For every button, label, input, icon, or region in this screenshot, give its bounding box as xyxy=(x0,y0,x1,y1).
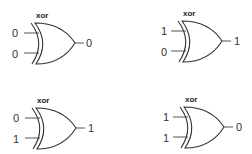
input-a-value: 1 xyxy=(163,111,169,123)
output-value: 0 xyxy=(86,37,92,49)
xor-gate-body-icon xyxy=(35,23,75,64)
gate-label: xor xyxy=(36,11,48,20)
output-value: 0 xyxy=(236,121,242,133)
output-value: 1 xyxy=(234,35,240,47)
xor-diagram-canvas: xor 0 0 0 xor 1 0 1 xor 0 1 1 xor 1 1 xyxy=(0,0,252,154)
xor-gate-4: xor 1 1 0 xyxy=(163,95,242,148)
xor-gate-body-icon xyxy=(36,108,76,149)
output-value: 1 xyxy=(88,122,94,134)
input-b-value: 0 xyxy=(161,46,167,58)
xor-gate-body-icon xyxy=(182,21,222,62)
input-b-value: 0 xyxy=(12,48,18,60)
xor-gate-1: xor 0 0 0 xyxy=(12,11,92,64)
xor-extra-curve-icon xyxy=(178,21,186,62)
input-a-value: 0 xyxy=(12,27,18,39)
gate-label: xor xyxy=(185,95,197,104)
xor-gate-3: xor 0 1 1 xyxy=(13,96,94,149)
gate-label: xor xyxy=(183,9,195,18)
xor-gate-2: xor 1 0 1 xyxy=(161,9,240,62)
gate-label: xor xyxy=(37,96,49,105)
xor-gate-body-icon xyxy=(184,107,224,148)
input-b-value: 1 xyxy=(13,133,19,145)
xor-extra-curve-icon xyxy=(31,23,39,64)
xor-extra-curve-icon xyxy=(32,108,40,149)
input-a-value: 0 xyxy=(13,112,19,124)
xor-extra-curve-icon xyxy=(180,107,188,148)
input-a-value: 1 xyxy=(161,25,167,37)
input-b-value: 1 xyxy=(163,132,169,144)
